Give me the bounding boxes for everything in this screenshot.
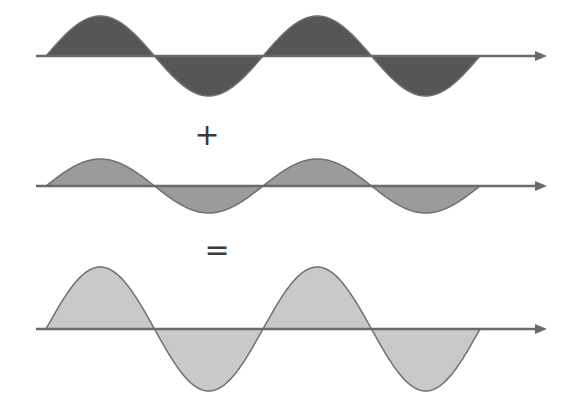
arrowhead-icon xyxy=(535,324,547,334)
wave-1 xyxy=(36,16,547,96)
arrowhead-icon xyxy=(535,181,547,191)
equals-sign: = xyxy=(204,235,229,265)
resultant-wave xyxy=(36,267,547,391)
wave-2 xyxy=(36,159,547,213)
wave-superposition-diagram xyxy=(0,0,575,419)
plus-sign: + xyxy=(194,120,219,150)
arrowhead-icon xyxy=(535,51,547,61)
